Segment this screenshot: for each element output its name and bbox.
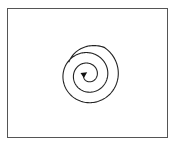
spiral-line	[63, 46, 118, 103]
arrowhead-icon	[81, 72, 88, 78]
spiral-diagram	[0, 0, 183, 152]
